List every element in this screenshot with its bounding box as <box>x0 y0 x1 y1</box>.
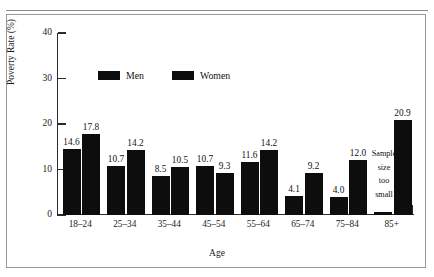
bar-men-35–44 <box>152 176 170 215</box>
bar-women-35–44 <box>171 167 189 215</box>
bar-men-75–84 <box>330 197 348 215</box>
annotation-line-1: Sample <box>361 147 407 161</box>
annotation-line-4: small <box>361 188 407 202</box>
bar-women-65–74 <box>305 173 323 215</box>
bar-value-women-25–34: 14.2 <box>121 138 151 148</box>
bar-value-women-65–74: 9.2 <box>299 161 329 171</box>
annotation-sample-size-too-small: Samplesizetoosmall <box>361 147 407 201</box>
bar-men-45–54 <box>196 166 214 215</box>
annotation-line-2: size <box>361 161 407 175</box>
x-axis-tick-label-85+: 85+ <box>370 219 415 229</box>
annotation-line-3: too <box>361 174 407 188</box>
bar-women-55–64 <box>260 150 278 215</box>
bar-men-55–64 <box>241 162 259 215</box>
bar-value-women-45–54: 9.3 <box>210 161 240 171</box>
bar-women-45–54 <box>216 173 234 215</box>
bar-value-women-55–64: 14.2 <box>254 138 284 148</box>
x-axis-title: Age <box>0 248 434 258</box>
bar-value-women-18–24: 17.8 <box>76 122 106 132</box>
x-axis-tick-label-55–64: 55–64 <box>236 219 281 229</box>
bar-women-18–24 <box>82 134 100 215</box>
x-axis-tick-label-75–84: 75–84 <box>325 219 370 229</box>
bar-men-25–34 <box>107 166 125 215</box>
bar-value-women-85+: 20.9 <box>388 108 418 118</box>
bar-women-25–34 <box>127 150 145 215</box>
x-axis-tick-label-18–24: 18–24 <box>58 219 103 229</box>
bar-men-85+-stub <box>374 212 392 215</box>
x-axis-tick-label-65–74: 65–74 <box>281 219 326 229</box>
x-axis-tick-label-35–44: 35–44 <box>147 219 192 229</box>
bar-men-18–24 <box>63 149 81 215</box>
figure-poverty-rate-by-age-and-sex: 010203040 Poverty Rate (%) Men Women 14.… <box>0 0 434 277</box>
x-axis-tick-label-45–54: 45–54 <box>192 219 237 229</box>
x-axis-tick-label-25–34: 25–34 <box>103 219 148 229</box>
bar-men-65–74 <box>285 196 303 215</box>
